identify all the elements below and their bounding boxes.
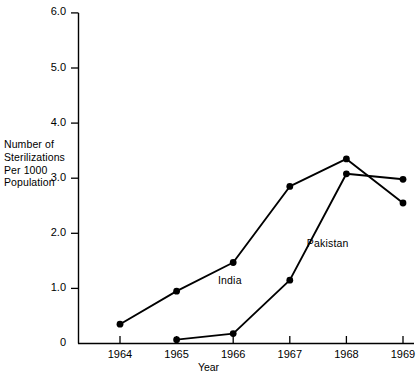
data-point-marker [230,330,237,337]
x-axis-tick-label: 1969 [381,348,417,360]
data-point-marker [117,321,124,328]
data-series-group [117,156,407,344]
x-axis-title: Year [0,361,417,373]
y-axis-tick-label: 4.0 [32,116,66,128]
data-point-marker [173,288,180,295]
data-point-marker [286,277,293,284]
plot-area [0,0,417,380]
data-point-marker [173,336,180,343]
data-point-marker [286,183,293,190]
y-axis-tick-label: 5.0 [32,61,66,73]
series-label-india: India [218,274,242,286]
x-axis-tick-label: 1967 [268,348,312,360]
data-point-marker [343,156,350,163]
y-axis-tick-label: 1.0 [32,281,66,293]
y-axis-title-line-1: Number of [4,138,65,151]
sterilization-rate-line-chart: Number of Sterilizations Per 1000 Popula… [0,0,417,380]
x-axis-tick-label: 1968 [324,348,368,360]
y-axis-tick-label: 2.0 [32,226,66,238]
series-line-pakistan [177,174,403,340]
series-label-pakistan: Pakistan [307,237,349,249]
y-axis-tick-label: 3.0 [32,171,66,183]
y-axis-tick-label: 6.0 [32,5,66,17]
data-point-marker [343,170,350,177]
x-axis-tick-label: 1964 [98,348,142,360]
data-point-marker [400,176,407,183]
x-axis-ticks [120,336,403,344]
x-axis-tick-label: 1965 [155,348,199,360]
data-point-marker [400,200,407,207]
y-axis-title-line-2: Sterilizations [4,151,65,164]
y-axis-ticks [71,13,79,289]
series-line-india [120,159,403,324]
x-axis-tick-label: 1966 [211,348,255,360]
data-point-marker [230,259,237,266]
y-axis-tick-label: 0 [32,336,66,348]
axes [78,13,414,344]
